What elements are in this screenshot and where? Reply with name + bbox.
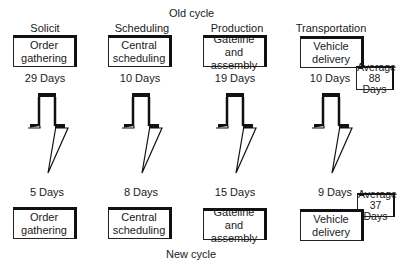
old-days-vehicle-delivery: 10 Days <box>295 72 365 84</box>
down-arrow-icon <box>214 93 258 177</box>
new-box-central-scheduling: Central scheduling <box>108 207 172 239</box>
stage-label-scheduling: Scheduling <box>97 22 187 34</box>
old-box-vehicle-delivery: Vehicle delivery <box>300 36 364 68</box>
old-days-order-gathering: 29 Days <box>10 72 80 84</box>
down-arrow-icon <box>120 93 164 177</box>
old-average-badge: Average 88 Days <box>356 66 394 90</box>
old-box-central-scheduling: Central scheduling <box>108 35 172 67</box>
old-average-value: 88 Days <box>357 73 392 95</box>
stage-label-solicit: Solicit <box>0 22 90 34</box>
old-cycle-title: Old cycle <box>169 7 214 19</box>
down-arrow-icon <box>310 93 354 177</box>
stage-label-transportation: Transportation <box>286 22 376 34</box>
down-arrow-icon <box>26 93 70 177</box>
new-box-vehicle-delivery: Vehicle delivery <box>300 209 364 241</box>
old-box-gateline-assembly: Gateline and assembly <box>203 35 267 67</box>
new-days-gateline-assembly: 15 Days <box>200 186 270 198</box>
new-cycle-title: New cycle <box>166 248 216 260</box>
old-days-central-scheduling: 10 Days <box>105 72 175 84</box>
new-days-order-gathering: 5 Days <box>12 186 82 198</box>
old-days-gateline-assembly: 19 Days <box>200 72 270 84</box>
old-box-order-gathering: Order gathering <box>13 35 77 67</box>
new-box-order-gathering: Order gathering <box>13 207 77 239</box>
new-days-central-scheduling: 8 Days <box>106 186 176 198</box>
new-box-gateline-assembly: Gateline and assembly <box>203 208 267 240</box>
